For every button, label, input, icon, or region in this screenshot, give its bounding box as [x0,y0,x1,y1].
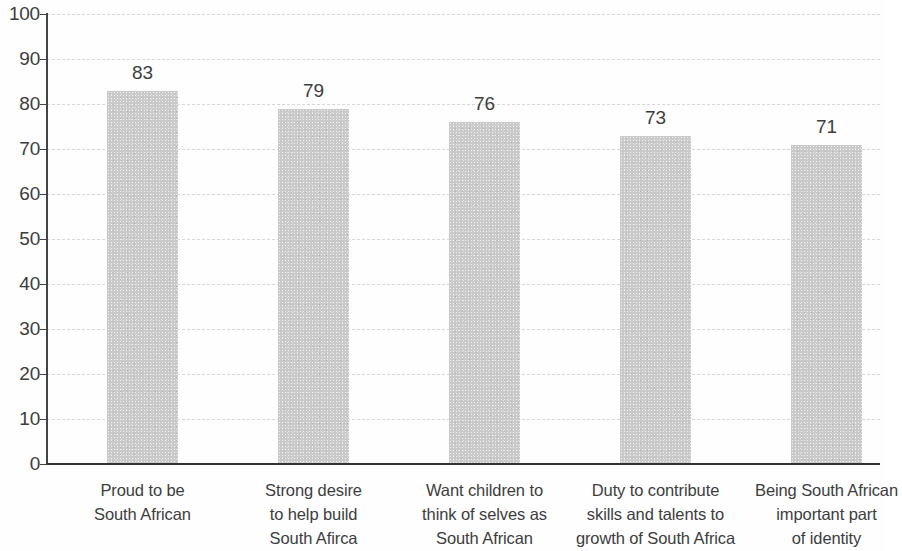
category-label-line: growth of South Africa [570,526,741,550]
y-axis-tick [40,284,47,285]
bar [278,109,349,465]
category-label: Proud to beSouth African [57,478,228,526]
category-label-line: skills and talents to [570,502,741,526]
y-axis-tick [40,14,47,15]
y-axis-tick-label: 100 [0,4,40,23]
y-axis-tick-label: 60 [0,184,40,203]
y-axis-tick-label: 40 [0,274,40,293]
gridline [47,59,880,60]
y-axis-tick [40,329,47,330]
y-axis-tick [40,374,47,375]
category-label: Want children tothink of selves asSouth … [399,478,570,550]
category-label-line: Being South African [741,478,902,502]
category-label-line: Duty to contribute [570,478,741,502]
y-axis-tick [40,239,47,240]
y-axis-tick-label-text: 10 [2,409,40,428]
category-label-line: South African [399,526,570,550]
y-axis-tick-label-text: 80 [2,94,40,113]
y-axis-tick-label: 50 [0,229,40,248]
y-axis-tick [40,149,47,150]
y-axis-tick-label-text: 70 [2,139,40,158]
category-label-line: important part [741,502,902,526]
bar [620,136,691,465]
bar-value-label: 76 [445,94,525,113]
category-label-line: South African [57,502,228,526]
category-label: Duty to contributeskills and talents tog… [570,478,741,550]
bar-value-label: 73 [616,108,696,127]
y-axis-tick-label-text: 60 [2,184,40,203]
category-label-line: Strong desire [228,478,399,502]
x-axis-line [46,463,880,465]
category-label: Strong desireto help buildSouth Afirca [228,478,399,550]
y-axis-tick-label: 80 [0,94,40,113]
category-label-line: Want children to [399,478,570,502]
y-axis-tick-label-text: 90 [2,49,40,68]
bar-value-label: 83 [103,63,183,82]
bar [107,91,178,465]
y-axis-tick [40,419,47,420]
y-axis-tick-label-text: 20 [2,364,40,383]
y-axis-tick [40,59,47,60]
category-label-line: to help build [228,502,399,526]
y-axis-tick-label: 90 [0,49,40,68]
y-axis-tick-label: 70 [0,139,40,158]
category-label-line: South Afirca [228,526,399,550]
y-axis-tick-label: 30 [0,319,40,338]
y-axis-tick-label-text: 50 [2,229,40,248]
gridline [47,14,880,15]
y-axis-tick-label: 20 [0,364,40,383]
bar [449,122,520,464]
y-axis-tick [40,194,47,195]
category-label-line: of identity [741,526,902,550]
bar-value-label: 71 [787,117,867,136]
plot-area [47,14,880,464]
y-axis-tick-label-text: 0 [2,454,40,473]
y-axis-tick-label: 0 [0,454,40,473]
category-label-line: Proud to be [57,478,228,502]
y-axis-tick-label: 10 [0,409,40,428]
y-axis-tick-label-text: 30 [2,319,40,338]
category-label-line: think of selves as [399,502,570,526]
bar-value-label: 79 [274,81,354,100]
y-axis-tick [40,104,47,105]
y-axis-tick-label-text: 40 [2,274,40,293]
category-label: Being South Africanimportant partof iden… [741,478,902,550]
y-axis-tick [40,464,47,465]
bar [791,145,862,465]
y-axis-tick-label-text: 100 [2,4,40,23]
